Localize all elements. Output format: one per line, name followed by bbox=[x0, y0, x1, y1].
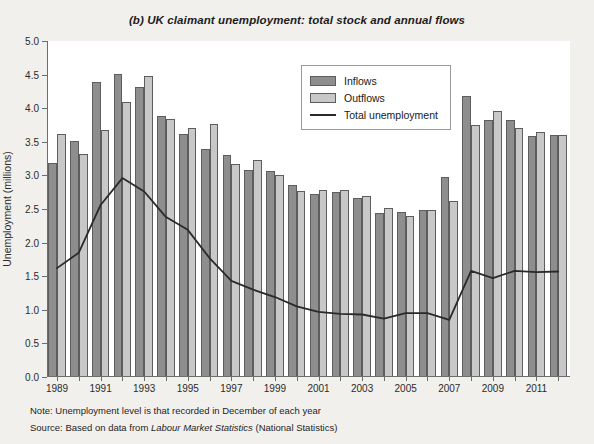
x-axis-tick bbox=[406, 377, 407, 381]
x-axis-tick bbox=[536, 377, 537, 381]
y-axis-tick-label: 0.0 bbox=[25, 372, 39, 383]
source-prefix: Source: Based on data from bbox=[30, 422, 151, 433]
x-axis-tick bbox=[471, 377, 472, 381]
x-axis-tick bbox=[275, 377, 276, 381]
y-axis-tick-label: 5.0 bbox=[25, 36, 39, 47]
y-axis-tick-label: 3.5 bbox=[25, 136, 39, 147]
x-axis-tick-label: 1997 bbox=[220, 383, 242, 394]
y-axis-title: Unemployment (millions) bbox=[1, 151, 13, 267]
chart-title: (b) UK claimant unemployment: total stoc… bbox=[0, 14, 594, 26]
x-axis-tick bbox=[231, 377, 232, 381]
x-axis-tick-label: 1989 bbox=[46, 383, 68, 394]
legend-swatch-outflows bbox=[310, 93, 336, 103]
x-axis-tick-label: 1991 bbox=[89, 383, 111, 394]
chart-legend: Inflows Outflows Total unemployment bbox=[301, 65, 451, 130]
y-axis-tick-label: 4.5 bbox=[25, 69, 39, 80]
x-axis-tick bbox=[384, 377, 385, 381]
y-axis-tick-label: 4.0 bbox=[25, 103, 39, 114]
x-axis-tick-label: 2005 bbox=[395, 383, 417, 394]
x-axis-tick bbox=[449, 377, 450, 381]
figure-panel: (b) UK claimant unemployment: total stoc… bbox=[0, 0, 594, 444]
legend-label-inflows: Inflows bbox=[344, 75, 377, 87]
x-axis-tick-label: 2001 bbox=[307, 383, 329, 394]
source-suffix: (National Statistics) bbox=[253, 422, 337, 433]
x-axis-tick bbox=[188, 377, 189, 381]
x-axis-tick-label: 2011 bbox=[526, 383, 548, 394]
x-axis-tick bbox=[144, 377, 145, 381]
legend-item-inflows: Inflows bbox=[310, 72, 438, 89]
y-axis-tick-label: 2.0 bbox=[25, 237, 39, 248]
x-axis-tick-label: 1999 bbox=[264, 383, 286, 394]
y-axis-tick-label: 2.5 bbox=[25, 204, 39, 215]
x-axis-tick-label: 2007 bbox=[438, 383, 460, 394]
x-axis-tick bbox=[297, 377, 298, 381]
legend-swatch-total-line bbox=[310, 110, 336, 120]
legend-label-total: Total unemployment bbox=[344, 109, 438, 121]
x-axis-tick-label: 1995 bbox=[177, 383, 199, 394]
x-axis-tick bbox=[101, 377, 102, 381]
y-axis-tick-label: 3.0 bbox=[25, 170, 39, 181]
y-axis-tick-label: 0.5 bbox=[25, 338, 39, 349]
legend-item-total: Total unemployment bbox=[310, 106, 438, 123]
x-axis-tick bbox=[319, 377, 320, 381]
x-axis-tick bbox=[558, 377, 559, 381]
x-axis-tick bbox=[210, 377, 211, 381]
x-axis-tick bbox=[362, 377, 363, 381]
x-axis-tick-label: 1993 bbox=[133, 383, 155, 394]
x-axis-tick bbox=[493, 377, 494, 381]
x-axis-tick bbox=[79, 377, 80, 381]
x-axis-tick bbox=[515, 377, 516, 381]
y-axis-tick-label: 1.0 bbox=[25, 304, 39, 315]
x-axis-tick bbox=[122, 377, 123, 381]
chart-note: Note: Unemployment level is that recorde… bbox=[30, 405, 321, 416]
x-axis-line bbox=[47, 376, 570, 377]
legend-item-outflows: Outflows bbox=[310, 89, 438, 106]
source-publication: Labour Market Statistics bbox=[151, 422, 253, 433]
x-axis-tick bbox=[253, 377, 254, 381]
x-axis-tick bbox=[166, 377, 167, 381]
y-axis-tick bbox=[42, 377, 47, 378]
x-axis-tick-label: 2009 bbox=[482, 383, 504, 394]
y-axis-line bbox=[47, 41, 48, 377]
x-axis-tick-label: 2003 bbox=[351, 383, 373, 394]
plot-area: Unemployment (millions) 0.00.51.01.52.02… bbox=[47, 41, 570, 377]
x-axis-tick bbox=[427, 377, 428, 381]
legend-label-outflows: Outflows bbox=[344, 92, 385, 104]
x-axis-tick bbox=[57, 377, 58, 381]
legend-swatch-inflows bbox=[310, 76, 336, 86]
x-axis-tick bbox=[340, 377, 341, 381]
chart-source: Source: Based on data from Labour Market… bbox=[30, 422, 337, 433]
y-axis-tick-label: 1.5 bbox=[25, 271, 39, 282]
